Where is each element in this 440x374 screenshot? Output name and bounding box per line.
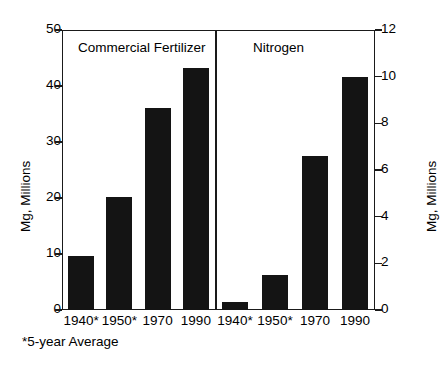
y-tick-mark-right: [375, 169, 382, 171]
x-tick-label: 1950*: [257, 313, 292, 328]
y-tick-mark-right: [375, 123, 382, 125]
y-tick-mark-right: [375, 76, 382, 78]
y-tick-mark-right: [375, 263, 382, 265]
bar: [262, 275, 288, 310]
y-tick-mark-right: [375, 309, 382, 311]
y-axis-label-right: Mg, Millions: [424, 161, 439, 232]
y-axis-label-left: Mg, Millions: [18, 161, 33, 232]
x-tick-label: 1940*: [217, 313, 252, 328]
bar: [342, 77, 368, 310]
x-tick-label: 1970: [300, 313, 330, 328]
bar-chart-figure: Commercial Fertilizer Nitrogen 504030201…: [0, 0, 440, 374]
y-tick-label-right: 0: [381, 302, 389, 316]
y-tick-mark-left: [55, 85, 62, 87]
x-tick-label: 1970: [143, 313, 173, 328]
y-tick-mark-right: [375, 29, 382, 31]
x-tick-label: 1940*: [63, 313, 98, 328]
y-tick-label-right: 4: [381, 209, 389, 223]
y-tick-mark-left: [55, 29, 62, 31]
y-tick-label-right: 12: [381, 22, 396, 36]
bar: [302, 156, 328, 310]
y-tick-mark-left: [55, 253, 62, 255]
y-tick-mark-right: [375, 216, 382, 218]
x-tick-label: 1990: [340, 313, 370, 328]
y-tick-label-right: 6: [381, 162, 389, 176]
bar: [222, 302, 248, 310]
y-tick-label-right: 10: [381, 69, 396, 83]
y-tick-label-right: 8: [381, 115, 389, 129]
y-tick-mark-left: [55, 141, 62, 143]
footnote-five-year-average: *5-year Average: [22, 334, 119, 349]
y-tick-mark-left: [55, 309, 62, 311]
x-tick-label: 1950*: [102, 313, 137, 328]
y-tick-mark-left: [55, 197, 62, 199]
y-tick-label-right: 2: [381, 255, 389, 269]
bars-nitrogen: [62, 30, 375, 310]
x-tick-label: 1990: [181, 313, 211, 328]
